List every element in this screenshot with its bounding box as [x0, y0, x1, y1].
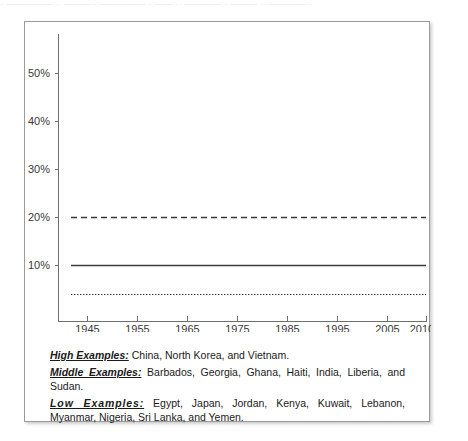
legend-key-high: High Examples: [50, 349, 129, 361]
legend-row-low: Low Examples: Egypt, Japan, Jordan, Keny… [50, 396, 405, 425]
x-tick-label-1955: 1955 [125, 323, 149, 332]
x-tick-label-1965: 1965 [175, 323, 199, 332]
y-tick-label-40: 40% [28, 115, 50, 127]
legend-key-middle: Middle Examples: [50, 366, 141, 378]
y-tick-label-10: 10% [28, 259, 50, 271]
x-tick-label-1945: 1945 [75, 323, 99, 332]
x-tick-label-2010: 2010 [410, 323, 431, 332]
x-tick-label-2005: 2005 [375, 323, 399, 332]
clipped-text-remnant: · ————— ·· ——— · ————— · —— ·· ———— · ——… [0, 0, 468, 8]
x-tick-label-1975: 1975 [225, 323, 249, 332]
chart-plot-area: 50% 40% 30% 20% 10% 1945 1955 1965 [25, 22, 431, 332]
legend-row-middle: Middle Examples: Barbados, Georgia, Ghan… [50, 365, 405, 394]
x-axis-ticks: 1945 1955 1965 1975 1985 1995 2005 2010 [75, 316, 431, 333]
y-tick-label-30: 30% [28, 163, 50, 175]
legend-key-low: Low Examples: [50, 397, 144, 409]
x-tick-label-1995: 1995 [325, 323, 349, 332]
legend-value-high: China, North Korea, and Vietnam. [132, 349, 289, 361]
figure-card: 50% 40% 30% 20% 10% 1945 1955 1965 [24, 21, 430, 422]
legend-row-high: High Examples: China, North Korea, and V… [50, 348, 405, 363]
chart-legend: High Examples: China, North Korea, and V… [50, 348, 405, 425]
x-tick-label-1985: 1985 [275, 323, 299, 332]
y-axis-ticks: 50% 40% 30% 20% 10% [28, 67, 59, 271]
y-tick-label-50: 50% [28, 67, 50, 79]
line-chart-svg: 50% 40% 30% 20% 10% 1945 1955 1965 [25, 22, 431, 332]
y-tick-label-20: 20% [28, 211, 50, 223]
